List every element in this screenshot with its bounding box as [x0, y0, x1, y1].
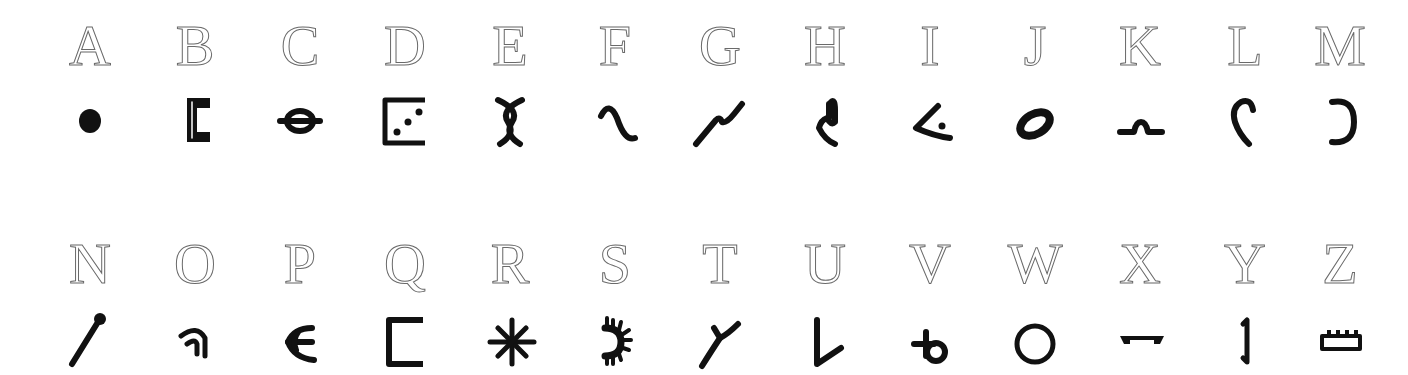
crossed-curves-icon	[480, 88, 540, 152]
letter-label: G	[670, 14, 770, 78]
letter-label: W	[985, 232, 1085, 296]
reversed-c-icon	[1310, 88, 1370, 152]
cipher-cell-l: L	[1195, 0, 1295, 150]
cipher-cell-z: Z	[1290, 218, 1390, 368]
cipher-cell-f: F	[565, 0, 665, 150]
letter-label: Q	[355, 232, 455, 296]
tilted-v-icon	[795, 306, 855, 370]
cipher-cell-r: R	[460, 218, 560, 368]
cipher-cell-h: H	[775, 0, 875, 150]
double-arch-icon	[165, 306, 225, 370]
thick-bracket-icon	[165, 88, 225, 152]
letter-label: V	[880, 232, 980, 296]
letter-label: X	[1090, 232, 1190, 296]
flat-staple-icon	[1110, 306, 1170, 370]
cipher-cell-c: C	[250, 0, 350, 150]
cipher-cell-v: V	[880, 218, 980, 368]
letter-label: H	[775, 14, 875, 78]
eight-point-star-icon	[480, 306, 540, 370]
forked-e-icon	[270, 306, 330, 370]
tilde-wave-icon	[585, 88, 645, 152]
cipher-cell-e: E	[460, 0, 560, 150]
vertical-staple-icon	[1215, 306, 1275, 370]
circle-bar-icon	[270, 88, 330, 152]
cipher-cell-d: D	[355, 0, 455, 150]
cipher-cell-s: S	[565, 218, 665, 368]
letter-label: C	[250, 14, 350, 78]
crossed-loop-icon	[900, 306, 960, 370]
letter-label: U	[775, 232, 875, 296]
half-sun-icon	[585, 306, 645, 370]
cipher-cell-w: W	[985, 218, 1085, 368]
letter-label: J	[985, 14, 1085, 78]
letter-label: R	[460, 232, 560, 296]
less-than-dot-icon	[900, 88, 960, 152]
cipher-cell-x: X	[1090, 218, 1190, 368]
cipher-cell-b: B	[145, 0, 245, 150]
hook-curve-icon	[1215, 88, 1275, 152]
letter-label: F	[565, 14, 665, 78]
letter-label: M	[1290, 14, 1390, 78]
letter-label: S	[565, 232, 665, 296]
cipher-cell-n: N	[40, 218, 140, 368]
cipher-cell-g: G	[670, 0, 770, 150]
cipher-cell-k: K	[1090, 0, 1190, 150]
letter-label: Z	[1290, 232, 1390, 296]
letter-label: O	[145, 232, 245, 296]
line-bump-icon	[1110, 88, 1170, 152]
letter-label: K	[1090, 14, 1190, 78]
letter-label: D	[355, 14, 455, 78]
letter-label: P	[250, 232, 350, 296]
open-square-bracket-icon	[375, 306, 435, 370]
letter-label: L	[1195, 14, 1295, 78]
letter-label: T	[670, 232, 770, 296]
y-branch-icon	[690, 306, 750, 370]
cipher-cell-u: U	[775, 218, 875, 368]
letter-label: E	[460, 14, 560, 78]
letter-label: B	[145, 14, 245, 78]
match-stick-icon	[60, 306, 120, 370]
rising-zigzag-icon	[690, 88, 750, 152]
cipher-cell-m: M	[1290, 0, 1390, 150]
cipher-cell-y: Y	[1195, 218, 1295, 368]
squiggle-hook-icon	[795, 88, 855, 152]
bracket-dots-icon	[375, 88, 435, 152]
filled-dot-icon	[60, 88, 120, 152]
letter-label: Y	[1195, 232, 1295, 296]
cipher-row-1: A B C D E F G H I J K L	[0, 0, 1408, 150]
cipher-row-2: N O P Q R S T U V W X Y	[0, 218, 1408, 368]
cipher-cell-p: P	[250, 218, 350, 368]
cipher-cell-a: A	[40, 0, 140, 150]
cipher-cell-q: Q	[355, 218, 455, 368]
cipher-cell-j: J	[985, 0, 1085, 150]
tilted-ring-icon	[1005, 88, 1065, 152]
cipher-cell-t: T	[670, 218, 770, 368]
open-circle-icon	[1005, 306, 1065, 370]
crenellated-bar-icon	[1310, 306, 1370, 370]
letter-label: A	[40, 14, 140, 78]
cipher-cell-i: I	[880, 0, 980, 150]
letter-label: I	[880, 14, 980, 78]
letter-label: N	[40, 232, 140, 296]
cipher-cell-o: O	[145, 218, 245, 368]
